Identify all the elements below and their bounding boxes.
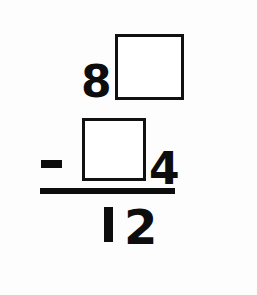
subtrahend-ones-digit: 4 [149,147,179,191]
minuend-ones-answer-box[interactable] [115,34,184,100]
minuend-tens-digit: 8 [81,60,111,104]
minus-sign-icon [41,160,62,168]
subtraction-problem: 8 4 2 [0,0,257,295]
subtrahend-tens-answer-box[interactable] [82,118,146,181]
result-tens-digit [104,207,113,242]
result-ones-digit: 2 [124,203,156,251]
horizontal-rule-icon [40,188,175,194]
